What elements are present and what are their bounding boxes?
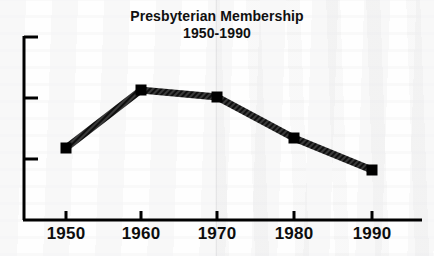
chart-plot-area xyxy=(0,0,434,256)
x-axis-label-1960: 1960 xyxy=(122,224,161,244)
series-markers xyxy=(61,85,378,176)
data-point-1990 xyxy=(367,165,378,176)
data-point-1970 xyxy=(212,92,223,103)
data-point-1950 xyxy=(61,143,72,154)
x-axis-tick-labels: 19501960197019801990 xyxy=(0,224,434,250)
x-axis-label-1990: 1990 xyxy=(353,224,392,244)
data-point-1960 xyxy=(136,85,147,96)
x-axis-label-1980: 1980 xyxy=(275,224,314,244)
x-axis-label-1950: 1950 xyxy=(47,224,86,244)
data-point-1980 xyxy=(289,133,300,144)
y-axis-ticks xyxy=(24,37,38,159)
chart-figure: Presbyterian Membership 1950-1990 195019… xyxy=(0,0,434,256)
x-axis-label-1970: 1970 xyxy=(198,224,237,244)
